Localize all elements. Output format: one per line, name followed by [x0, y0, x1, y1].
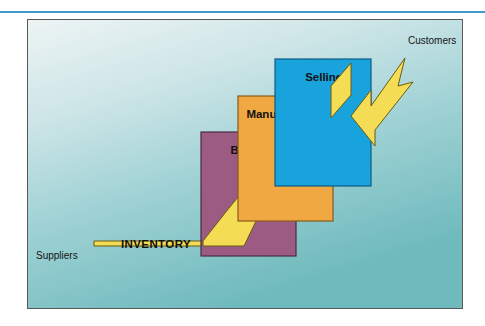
top-divider-rule [0, 11, 485, 13]
customers-label: Customers [408, 35, 456, 46]
suppliers-label: Suppliers [36, 250, 78, 261]
page-root: Buying Manufacturing Selling [0, 0, 485, 326]
inventory-flow-diagram: Buying Manufacturing Selling [28, 20, 462, 308]
inventory-label: INVENTORY [121, 238, 191, 250]
figure-frame: Buying Manufacturing Selling [27, 19, 463, 309]
